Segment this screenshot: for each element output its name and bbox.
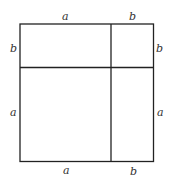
label-top-b: b xyxy=(129,10,136,23)
label-left-a: a xyxy=(10,106,17,119)
outer-square xyxy=(20,24,154,162)
label-right-a: a xyxy=(157,106,164,119)
label-top-a: a xyxy=(62,10,69,23)
label-bottom-a: a xyxy=(63,164,70,177)
label-left-b: b xyxy=(10,42,17,55)
square-partition-diagram: a b b b a a a b xyxy=(0,0,171,183)
label-right-b: b xyxy=(156,42,163,55)
label-bottom-b: b xyxy=(130,165,137,178)
